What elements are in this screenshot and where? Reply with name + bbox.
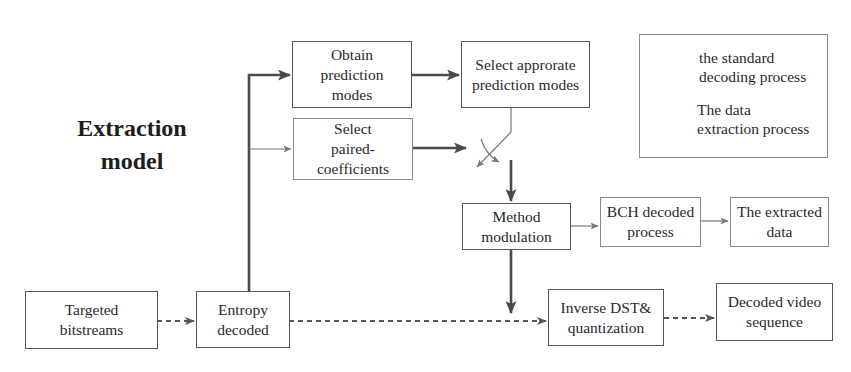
node-label: BCH decoded process [607, 202, 694, 242]
node-bch-decoded-process: BCH decoded process [600, 197, 701, 247]
node-label: Decoded video sequence [728, 292, 821, 332]
node-label: Targeted bitstreams [60, 300, 124, 340]
node-label: The extracted data [737, 202, 822, 242]
node-label: Obtain prediction modes [321, 45, 384, 105]
node-decoded-video-sequence: Decoded video sequence [716, 283, 833, 341]
node-label: Method modulation [481, 207, 552, 247]
node-label: Select paired- coefficients [317, 119, 389, 179]
node-obtain-prediction-modes: Obtain prediction modes [292, 41, 412, 108]
edge-entropy-to-obtain [249, 75, 290, 291]
node-label: Select approrate prediction modes [472, 55, 579, 95]
node-label: Entropy decoded [217, 300, 269, 340]
legend-solid-label: the standard decoding process [699, 48, 806, 86]
node-label: Inverse DST& quantization [561, 298, 652, 338]
diagram-title: Extraction model [62, 112, 202, 178]
node-select-paired-coefficients: Select paired- coefficients [293, 118, 413, 180]
switch-arc [481, 139, 499, 162]
node-targeted-bitstreams: Targeted bitstreams [25, 291, 158, 349]
node-method-modulation: Method modulation [462, 203, 571, 250]
node-entropy-decoded: Entropy decoded [196, 291, 290, 348]
node-extracted-data: The extracted data [730, 197, 829, 247]
legend-dashed-label: The data extraction process [697, 100, 809, 138]
node-inverse-dst-quantization: Inverse DST& quantization [548, 289, 664, 346]
node-select-appropriate-prediction-modes: Select approrate prediction modes [461, 41, 590, 108]
